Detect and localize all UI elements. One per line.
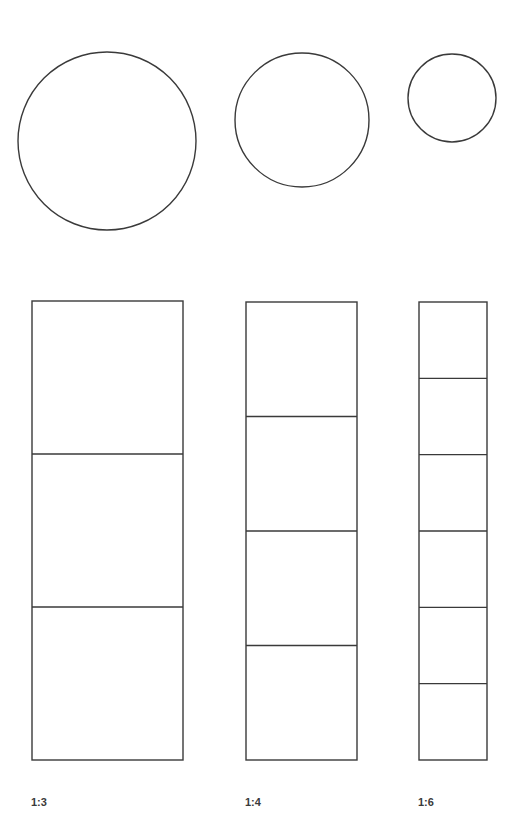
circle-1 [18, 52, 196, 230]
ratio-column-1-4 [246, 302, 357, 760]
column-outline [32, 301, 183, 760]
proportion-diagram [0, 0, 514, 830]
ratio-label-1-3: 1:3 [31, 796, 47, 808]
circle-3 [408, 54, 496, 142]
ratio-label-1-6: 1:6 [418, 796, 434, 808]
ratio-column-1-6 [419, 302, 487, 760]
ratio-column-1-3 [32, 301, 183, 760]
circle-2 [235, 53, 369, 187]
ratio-label-1-4: 1:4 [245, 796, 261, 808]
